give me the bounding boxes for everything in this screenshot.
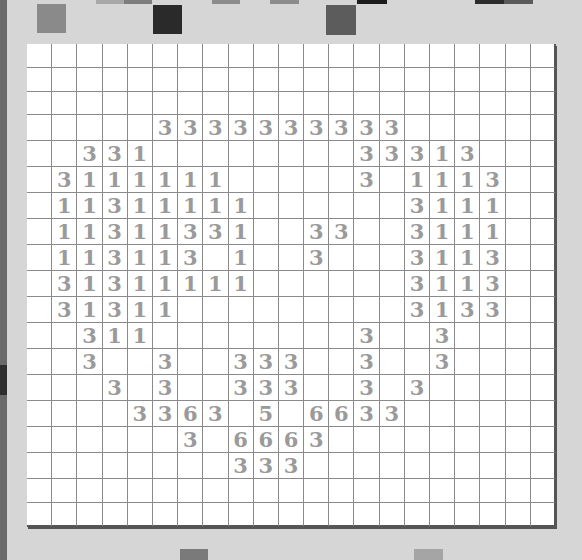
grid-cell[interactable] — [27, 375, 52, 401]
grid-cell[interactable] — [506, 167, 531, 193]
grid-cell[interactable]: 1 — [77, 245, 102, 271]
grid-cell[interactable] — [229, 44, 254, 68]
grid-cell[interactable] — [455, 44, 480, 68]
grid-cell[interactable] — [506, 503, 531, 527]
grid-cell[interactable]: 3 — [103, 219, 128, 245]
grid-cell[interactable]: 3 — [480, 167, 505, 193]
grid-cell[interactable]: 3 — [279, 349, 304, 375]
grid-cell[interactable] — [203, 349, 228, 375]
grid-cell[interactable] — [455, 503, 480, 527]
grid-cell[interactable] — [77, 503, 102, 527]
grid-cell[interactable] — [531, 297, 556, 323]
grid-cell[interactable] — [506, 68, 531, 92]
grid-cell[interactable]: 1 — [430, 219, 455, 245]
grid-cell[interactable] — [77, 453, 102, 479]
grid-cell[interactable] — [103, 427, 128, 453]
grid-cell[interactable] — [329, 427, 354, 453]
grid-cell[interactable]: 3 — [354, 167, 379, 193]
grid-cell[interactable] — [506, 297, 531, 323]
grid-cell[interactable] — [405, 92, 430, 116]
grid-cell[interactable] — [304, 375, 329, 401]
grid-cell[interactable]: 3 — [103, 271, 128, 297]
grid-cell[interactable] — [279, 167, 304, 193]
grid-cell[interactable] — [304, 297, 329, 323]
grid-cell[interactable] — [279, 503, 304, 527]
grid-cell[interactable] — [531, 193, 556, 219]
grid-cell[interactable]: 3 — [354, 141, 379, 167]
grid-cell[interactable]: 3 — [354, 401, 379, 427]
grid-cell[interactable] — [304, 453, 329, 479]
grid-cell[interactable] — [455, 401, 480, 427]
grid-cell[interactable]: 1 — [229, 193, 254, 219]
grid-cell[interactable]: 1 — [103, 167, 128, 193]
grid-cell[interactable]: 3 — [229, 349, 254, 375]
grid-cell[interactable] — [229, 479, 254, 503]
grid-cell[interactable]: 3 — [254, 115, 279, 141]
grid-cell[interactable] — [430, 92, 455, 116]
grid-cell[interactable] — [329, 297, 354, 323]
grid-cell[interactable] — [153, 44, 178, 68]
grid-cell[interactable]: 3 — [254, 453, 279, 479]
grid-cell[interactable] — [52, 323, 77, 349]
grid-cell[interactable] — [405, 44, 430, 68]
grid-cell[interactable] — [203, 503, 228, 527]
grid-cell[interactable] — [279, 323, 304, 349]
grid-cell[interactable] — [531, 479, 556, 503]
grid-cell[interactable] — [52, 141, 77, 167]
grid-cell[interactable] — [279, 401, 304, 427]
grid-cell[interactable]: 3 — [405, 375, 430, 401]
grid-cell[interactable] — [430, 68, 455, 92]
grid-cell[interactable] — [455, 92, 480, 116]
grid-cell[interactable] — [531, 68, 556, 92]
grid-cell[interactable] — [203, 375, 228, 401]
grid-cell[interactable]: 1 — [128, 323, 153, 349]
grid-cell[interactable] — [103, 453, 128, 479]
grid-cell[interactable]: 3 — [380, 401, 405, 427]
grid-cell[interactable] — [153, 427, 178, 453]
grid-cell[interactable] — [531, 453, 556, 479]
grid-cell[interactable] — [128, 453, 153, 479]
grid-cell[interactable]: 3 — [254, 375, 279, 401]
grid-cell[interactable]: 3 — [254, 349, 279, 375]
grid-cell[interactable]: 3 — [128, 401, 153, 427]
grid-cell[interactable]: 3 — [329, 219, 354, 245]
grid-cell[interactable]: 3 — [405, 297, 430, 323]
grid-cell[interactable] — [304, 503, 329, 527]
grid-cell[interactable] — [455, 427, 480, 453]
grid-cell[interactable]: 3 — [405, 141, 430, 167]
grid-cell[interactable]: 1 — [77, 297, 102, 323]
grid-cell[interactable] — [405, 323, 430, 349]
grid-cell[interactable]: 1 — [153, 167, 178, 193]
grid-cell[interactable] — [229, 167, 254, 193]
grid-cell[interactable] — [380, 349, 405, 375]
grid-cell[interactable]: 1 — [455, 167, 480, 193]
grid-cell[interactable] — [480, 427, 505, 453]
grid-cell[interactable] — [455, 68, 480, 92]
grid-cell[interactable] — [52, 375, 77, 401]
grid-cell[interactable] — [506, 323, 531, 349]
grid-cell[interactable] — [430, 375, 455, 401]
grid-cell[interactable] — [329, 167, 354, 193]
grid-cell[interactable] — [229, 503, 254, 527]
grid-cell[interactable]: 3 — [178, 427, 203, 453]
grid-cell[interactable] — [304, 44, 329, 68]
grid-cell[interactable] — [178, 503, 203, 527]
grid-cell[interactable] — [304, 479, 329, 503]
grid-cell[interactable] — [203, 427, 228, 453]
grid-cell[interactable]: 1 — [128, 167, 153, 193]
grid-cell[interactable]: 3 — [329, 115, 354, 141]
grid-cell[interactable] — [430, 115, 455, 141]
grid-cell[interactable] — [430, 503, 455, 527]
grid-cell[interactable] — [52, 479, 77, 503]
grid-cell[interactable] — [531, 44, 556, 68]
grid-cell[interactable] — [354, 92, 379, 116]
grid-cell[interactable] — [254, 479, 279, 503]
grid-cell[interactable]: 3 — [103, 375, 128, 401]
grid-cell[interactable] — [27, 219, 52, 245]
grid-cell[interactable]: 3 — [430, 349, 455, 375]
grid-cell[interactable]: 3 — [430, 323, 455, 349]
grid-cell[interactable] — [77, 401, 102, 427]
grid-cell[interactable] — [480, 92, 505, 116]
grid-cell[interactable] — [153, 503, 178, 527]
grid-cell[interactable]: 3 — [455, 141, 480, 167]
